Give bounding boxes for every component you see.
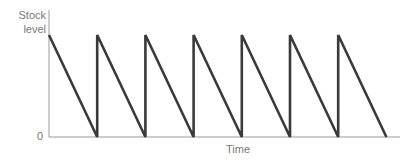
y-axis-label: Stock level xyxy=(6,8,46,36)
x-axis-label: Time xyxy=(226,143,250,155)
stock-level-chart xyxy=(0,0,411,164)
y-tick-zero: 0 xyxy=(37,130,43,142)
stock-sawtooth-line xyxy=(49,35,386,137)
